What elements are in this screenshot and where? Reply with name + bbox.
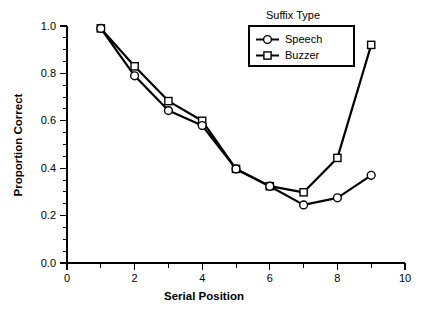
x-tick-label: 6 [267, 272, 273, 284]
y-tick-label: 0.6 [41, 114, 56, 126]
chart-container: 0.0 0.2 0.4 0.6 0.8 1.0 [0, 0, 433, 311]
circle-marker [264, 36, 272, 44]
line-chart: 0.0 0.2 0.4 0.6 0.8 1.0 [0, 0, 433, 311]
circle-marker [367, 171, 375, 179]
circle-marker [266, 182, 274, 190]
circle-marker [198, 122, 206, 130]
y-tick-label: 0.4 [41, 162, 56, 174]
square-marker [131, 63, 138, 70]
circle-marker [232, 165, 240, 173]
circle-marker [334, 194, 342, 202]
circle-marker [131, 72, 139, 80]
x-tick-label: 10 [399, 272, 411, 284]
square-marker [300, 189, 307, 196]
y-tick-label: 0.2 [41, 209, 56, 221]
y-axis-title: Proportion Correct [12, 93, 24, 196]
legend-label-speech: Speech [285, 33, 322, 45]
square-marker [264, 52, 271, 59]
x-tick-label: 2 [132, 272, 138, 284]
x-tick-label: 8 [334, 272, 340, 284]
circle-marker [97, 25, 105, 33]
legend-title: Suffix Type [266, 9, 320, 21]
x-tick-label: 4 [199, 272, 205, 284]
circle-marker [300, 201, 308, 209]
legend-label-buzzer: Buzzer [285, 49, 320, 61]
y-tick-label: 1.0 [41, 20, 56, 32]
y-tick-label: 0.0 [41, 257, 56, 269]
square-marker [368, 41, 375, 48]
square-marker [334, 154, 341, 161]
circle-marker [165, 107, 173, 115]
y-tick-label: 0.8 [41, 67, 56, 79]
x-axis-title: Serial Position [164, 290, 244, 302]
square-marker [165, 98, 172, 105]
x-tick-label: 0 [64, 272, 70, 284]
